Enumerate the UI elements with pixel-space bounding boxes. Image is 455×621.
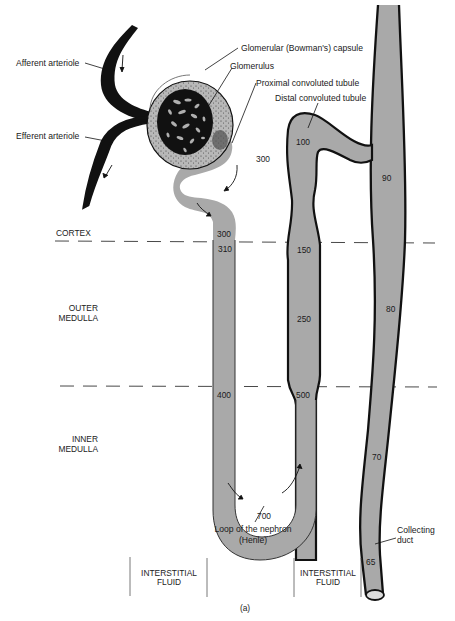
value-ascending-top: 150 bbox=[297, 245, 311, 255]
glomerulus bbox=[157, 89, 213, 155]
value-proximal-cortex: 300 bbox=[217, 229, 231, 239]
value-distal: 100 bbox=[296, 137, 310, 147]
value-duct-cortex: 90 bbox=[382, 173, 392, 183]
afferent-arteriole bbox=[101, 25, 155, 122]
label-proximal-tubule: Proximal convoluted tubule bbox=[256, 78, 359, 88]
value-duct-inner: 70 bbox=[372, 452, 382, 462]
label-collecting-duct: Collecting bbox=[397, 525, 435, 535]
collecting-duct bbox=[360, 5, 405, 599]
value-proximal-top: 300 bbox=[256, 154, 270, 164]
value-descending-top: 310 bbox=[218, 244, 232, 254]
label-efferent-arteriole: Efferent arteriole bbox=[16, 131, 80, 141]
label-distal-tubule: Distal convoluted tubule bbox=[275, 93, 366, 103]
zone-cortex: CORTEX bbox=[56, 228, 91, 238]
collecting-duct-opening bbox=[366, 590, 384, 600]
label-loop-of-henle-sub: (Henle) bbox=[239, 535, 267, 545]
label-glomerulus: Glomerulus bbox=[230, 61, 274, 71]
label-collecting-duct-sub: duct bbox=[397, 535, 414, 545]
interstitial-fluid-left-sub: FLUID bbox=[157, 577, 181, 587]
zone-outer: OUTER bbox=[69, 303, 98, 313]
value-ascending-inner: 500 bbox=[296, 390, 310, 400]
value-ascending-outer: 250 bbox=[297, 314, 311, 324]
value-duct-outer: 80 bbox=[386, 304, 396, 314]
interstitial-fluid-right-sub: FLUID bbox=[316, 577, 340, 587]
zone-outer-medulla: MEDULLA bbox=[58, 313, 98, 323]
label-bowmans-capsule: Glomerular (Bowman's) capsule bbox=[241, 43, 363, 53]
zone-inner-medulla: MEDULLA bbox=[58, 444, 98, 454]
value-duct-bottom: 65 bbox=[366, 557, 376, 567]
nephron-diagram: Afferent arteriole Efferent arteriole Gl… bbox=[0, 0, 455, 621]
label-afferent-arteriole: Afferent arteriole bbox=[16, 58, 80, 68]
value-descending-inner: 400 bbox=[217, 390, 231, 400]
efferent-arteriole bbox=[84, 117, 152, 207]
value-loop-bottom: 700 bbox=[257, 511, 271, 521]
zone-inner: INNER bbox=[72, 434, 98, 444]
figure-caption: (a) bbox=[240, 603, 250, 613]
label-loop-of-henle: Loop of the nephron bbox=[215, 524, 292, 534]
